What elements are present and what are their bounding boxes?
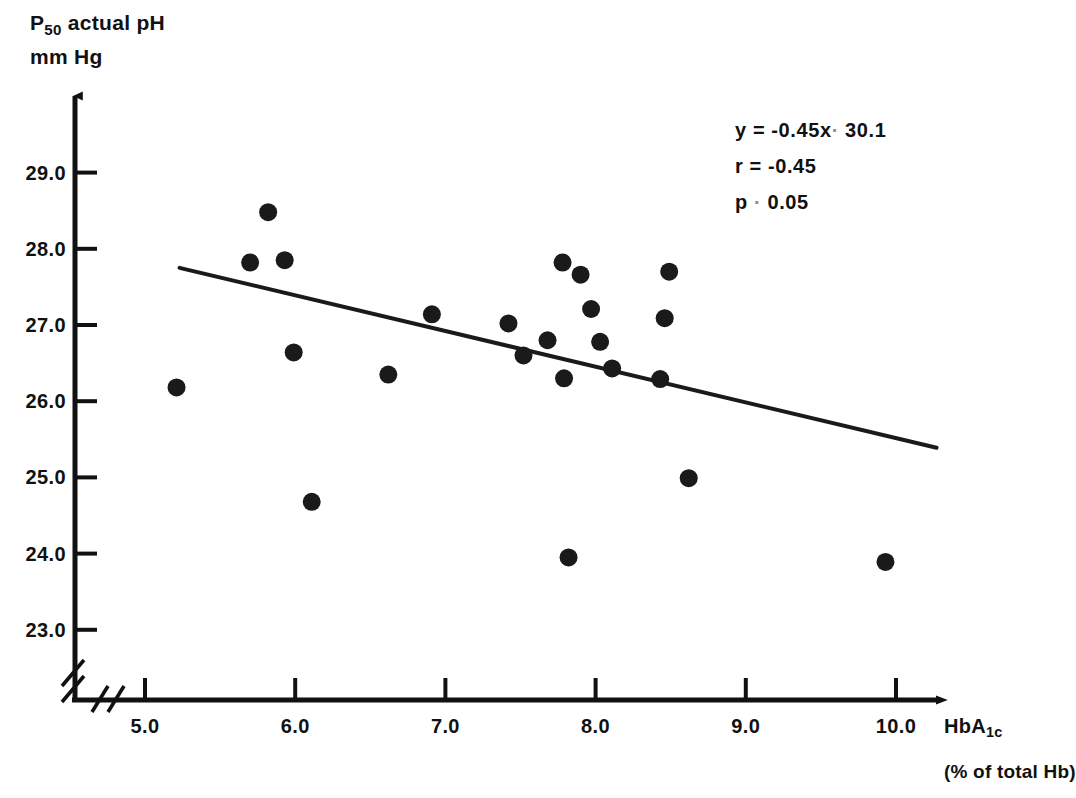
y-axis-tick-label: 27.0: [0, 315, 66, 335]
data-point: [276, 251, 294, 269]
plot-canvas: [0, 0, 1076, 798]
data-point: [876, 553, 894, 571]
y-axis-tick-label: 26.0: [0, 391, 66, 411]
x-axis-tick-label: 9.0: [711, 716, 781, 736]
data-point: [572, 266, 590, 284]
y-axis-tick-label: 23.0: [0, 620, 66, 640]
y-axis-tick-marks: [75, 173, 97, 630]
data-point-series: [168, 203, 895, 571]
y-axis-tick-label: 24.0: [0, 544, 66, 564]
x-axis-tick-label: 6.0: [260, 716, 330, 736]
x-axis-tick-marks: [145, 678, 896, 700]
data-point: [680, 469, 698, 487]
data-point: [555, 369, 573, 387]
y-axis-tick-label: 28.0: [0, 239, 66, 259]
data-point: [582, 300, 600, 318]
data-point: [560, 548, 578, 566]
data-point: [285, 343, 303, 361]
data-point: [539, 331, 557, 349]
data-point: [591, 333, 609, 351]
x-axis-tick-label: 5.0: [110, 716, 180, 736]
data-point: [660, 263, 678, 281]
scatter-plot-figure: P50 actual pH mm Hg HbA1c (% of total Hb…: [0, 0, 1076, 798]
y-axis-tick-label: 25.0: [0, 467, 66, 487]
data-point: [379, 366, 397, 384]
data-point: [656, 309, 674, 327]
x-axis-tick-label: 10.0: [861, 716, 931, 736]
data-point: [554, 254, 572, 272]
data-point: [423, 305, 441, 323]
data-point: [651, 370, 669, 388]
data-point: [168, 378, 186, 396]
data-point: [603, 359, 621, 377]
data-point: [499, 314, 517, 332]
data-point: [303, 493, 321, 511]
data-point: [259, 203, 277, 221]
x-axis-tick-label: 7.0: [410, 716, 480, 736]
x-axis-tick-label: 8.0: [561, 716, 631, 736]
data-point: [515, 346, 533, 364]
y-axis-tick-label: 29.0: [0, 163, 66, 183]
data-point: [241, 254, 259, 272]
